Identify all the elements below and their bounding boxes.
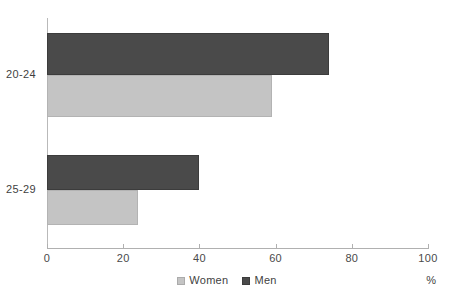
legend-label-men: Men <box>254 274 276 286</box>
legend-swatch-men <box>242 277 250 285</box>
legend-label-women: Women <box>189 274 228 286</box>
bar-chart: 20-2425-29 020406080100 WomenMen % <box>0 0 454 301</box>
x-tick-label-60: 60 <box>269 252 282 264</box>
x-tick-label-40: 40 <box>193 252 206 264</box>
x-tick-label-0: 0 <box>44 252 50 264</box>
bar-women-20-24 <box>47 75 272 117</box>
category-label-25-29: 25-29 <box>6 183 44 195</box>
x-axis-line <box>47 248 428 249</box>
x-tick-label-100: 100 <box>418 252 437 264</box>
chart-legend: WomenMen <box>0 274 454 286</box>
x-tick-0 <box>47 244 48 249</box>
bar-men-25-29 <box>47 155 199 190</box>
x-tick-40 <box>199 244 200 249</box>
x-tick-100 <box>428 244 429 249</box>
x-tick-20 <box>123 244 124 249</box>
legend-swatch-women <box>177 277 185 285</box>
plot-area <box>47 18 428 248</box>
category-label-20-24: 20-24 <box>6 68 44 80</box>
legend-item-men: Men <box>242 274 276 286</box>
x-tick-80 <box>352 244 353 249</box>
x-tick-label-20: 20 <box>117 252 130 264</box>
x-tick-60 <box>276 244 277 249</box>
bar-men-20-24 <box>47 33 329 75</box>
x-tick-label-80: 80 <box>345 252 358 264</box>
axis-unit-label: % <box>426 274 436 286</box>
bar-women-25-29 <box>47 190 138 225</box>
legend-item-women: Women <box>177 274 228 286</box>
